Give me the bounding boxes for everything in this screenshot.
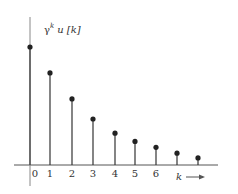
stem-marker xyxy=(153,145,158,150)
arrow-right-icon xyxy=(186,175,205,180)
stem-marker xyxy=(174,151,179,156)
y-axis-label: γku [k] xyxy=(44,22,81,35)
tick-labels: 0123456 xyxy=(32,168,159,179)
stem-marker xyxy=(90,116,95,121)
stem-marker xyxy=(112,131,117,136)
x-tick-label: 6 xyxy=(153,168,159,179)
x-tick-label: 0 xyxy=(32,168,38,179)
x-tick-label: 5 xyxy=(132,168,138,179)
x-tick-label: 4 xyxy=(112,168,118,179)
x-tick-label: 3 xyxy=(90,168,96,179)
stem-marker xyxy=(27,44,32,49)
stem-marker xyxy=(47,70,52,75)
x-axis-label: k xyxy=(176,171,182,182)
stem-marker xyxy=(195,155,200,160)
x-tick-label: 1 xyxy=(47,168,53,179)
stem-marker xyxy=(132,139,137,144)
x-tick-label: 2 xyxy=(69,168,75,179)
stem-marker xyxy=(69,96,74,101)
stems xyxy=(27,44,200,165)
stem-plot: 0123456 γku [k] k xyxy=(0,0,238,194)
